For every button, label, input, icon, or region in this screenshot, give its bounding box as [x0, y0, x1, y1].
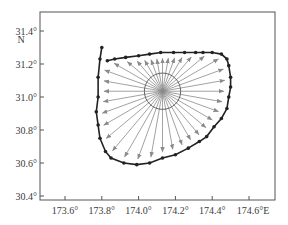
boundary-marker — [225, 57, 229, 61]
x-axis-ticks: 173.6°173.8°174.0°174.2°174.4°174.6°E — [52, 196, 270, 216]
x-tick-label: 174.4° — [199, 205, 226, 216]
x-tick-label: 174.0° — [125, 205, 152, 216]
chart: 173.6°173.8°174.0°174.2°174.4°174.6°E 31… — [0, 0, 288, 225]
boundary-marker — [113, 57, 117, 61]
boundary-marker — [96, 75, 100, 79]
y-axis-unit-label: N — [17, 34, 24, 45]
boundary-marker — [96, 123, 100, 127]
x-tick-label: 173.6° — [52, 205, 79, 216]
boundary-marker — [225, 107, 229, 111]
boundary-marker — [198, 140, 202, 144]
boundary-marker — [98, 136, 102, 140]
boundary-marker — [212, 125, 216, 129]
ray-arrows — [102, 56, 224, 159]
boundary-marker — [161, 156, 165, 160]
boundary-marker — [96, 95, 100, 99]
boundary-marker — [100, 46, 104, 50]
x-tick-label: 174.6°E — [237, 205, 270, 216]
y-tick-label: 31.2° — [16, 59, 38, 70]
boundary-marker — [186, 146, 190, 150]
boundary-marker — [227, 64, 231, 68]
y-tick-label: 30.4° — [16, 191, 38, 202]
boundary-marker — [109, 156, 113, 160]
boundary-marker — [229, 85, 233, 89]
boundary-marker — [124, 56, 128, 60]
boundary-marker — [183, 51, 187, 55]
boundary-marker — [104, 150, 108, 154]
boundary-marker — [172, 51, 176, 55]
boundary-marker — [159, 51, 163, 55]
boundary-marker — [148, 161, 152, 165]
y-tick-label: 31.0° — [16, 92, 38, 103]
boundary-marker — [94, 110, 98, 114]
y-tick-label: 30.8° — [16, 125, 38, 136]
boundary-marker — [201, 51, 205, 55]
boundary-marker — [220, 117, 224, 121]
boundary-marker — [227, 95, 231, 99]
boundary-marker — [229, 75, 233, 79]
boundary-marker — [205, 135, 209, 139]
boundary-marker — [135, 163, 139, 167]
x-tick-label: 174.2° — [162, 205, 189, 216]
boundary-marker — [174, 153, 178, 157]
boundary-marker — [137, 54, 141, 58]
boundary-marker — [210, 51, 214, 55]
boundary-marker — [220, 52, 224, 56]
boundary-marker — [122, 161, 126, 165]
x-tick-label: 173.8° — [89, 205, 116, 216]
boundary-marker — [98, 57, 102, 61]
boundary-marker — [106, 59, 110, 63]
boundary-marker — [194, 51, 198, 55]
y-tick-label: 30.6° — [16, 158, 38, 169]
boundary-marker — [148, 52, 152, 56]
